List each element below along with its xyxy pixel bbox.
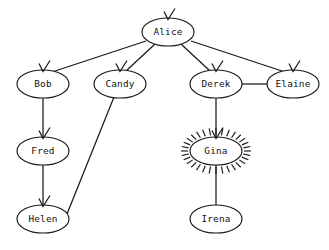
graph-diagram: AliceBobCandyDerekElaineFredGinaHelenIre…	[0, 0, 329, 250]
burst-ray	[197, 132, 201, 138]
burst-ray	[243, 147, 250, 148]
burst-ray	[187, 160, 193, 164]
edge-line	[181, 44, 210, 71]
edge-alice-to-derek	[181, 44, 210, 71]
node-derek[interactable]: Derek	[190, 70, 242, 98]
node-label-gina: Gina	[204, 145, 227, 156]
burst-ray	[191, 135, 196, 140]
burst-ray	[203, 130, 206, 136]
node-label-derek: Derek	[201, 78, 230, 89]
node-label-helen: Helen	[28, 213, 57, 224]
burst-ray	[232, 132, 236, 138]
burst-ray	[232, 164, 236, 170]
node-candy[interactable]: Candy	[94, 70, 146, 98]
nodes-layer: AliceBobCandyDerekElaineFredGinaHelenIre…	[17, 18, 319, 233]
burst-ray	[239, 138, 245, 142]
edges-layer	[43, 41, 285, 214]
burst-ray	[209, 128, 210, 135]
edge-line	[126, 44, 155, 71]
node-helen[interactable]: Helen	[17, 205, 69, 233]
edge-line	[191, 41, 285, 72]
graph-canvas: AliceBobCandyDerekElaineFredGinaHelenIre…	[0, 0, 329, 250]
node-label-candy: Candy	[105, 78, 134, 89]
burst-ray	[184, 142, 190, 145]
node-gina[interactable]: Gina	[190, 137, 242, 165]
burst-ray	[221, 167, 222, 174]
edge-alice-to-candy	[126, 44, 155, 71]
node-label-elaine: Elaine	[275, 78, 310, 89]
burst-ray	[236, 162, 241, 167]
edge-alice-to-elaine	[191, 41, 285, 72]
burst-ray	[182, 147, 189, 148]
burst-ray	[236, 135, 241, 140]
burst-ray	[209, 167, 210, 174]
burst-ray	[239, 160, 245, 164]
burst-ray	[242, 142, 248, 145]
node-bob[interactable]: Bob	[17, 70, 69, 98]
edge-line	[67, 97, 114, 214]
node-label-irena: Irena	[201, 213, 230, 224]
node-alice[interactable]: Alice	[142, 18, 194, 46]
burst-ray	[187, 138, 193, 142]
burst-ray	[242, 157, 248, 160]
node-fred[interactable]: Fred	[17, 137, 69, 165]
burst-ray	[184, 157, 190, 160]
edge-line	[52, 41, 146, 72]
burst-ray	[227, 166, 230, 172]
node-label-alice: Alice	[153, 26, 182, 37]
burst-ray	[182, 154, 189, 155]
burst-ray	[243, 154, 250, 155]
node-label-fred: Fred	[31, 145, 54, 156]
node-irena[interactable]: Irena	[190, 205, 242, 233]
edge-alice-to-bob	[52, 41, 146, 72]
node-elaine[interactable]: Elaine	[267, 70, 319, 98]
burst-ray	[197, 164, 201, 170]
edge-candy-to-helen	[67, 97, 114, 214]
burst-ray	[227, 130, 230, 136]
burst-ray	[203, 166, 206, 172]
burst-ray	[191, 162, 196, 167]
node-label-bob: Bob	[34, 78, 52, 89]
